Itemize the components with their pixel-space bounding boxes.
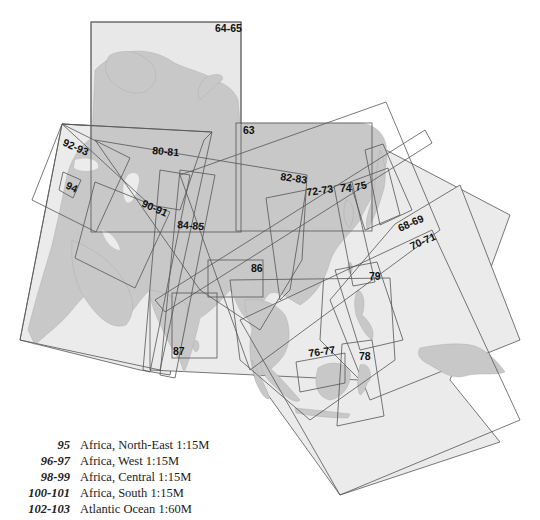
sheet-label-74: 74 — [340, 182, 352, 194]
legend-item: 95 Africa, North-East 1:15M — [8, 438, 209, 454]
legend-title: Africa, West 1:15M — [80, 454, 179, 469]
legend-title: Africa, Central 1:15M — [80, 470, 191, 485]
sheet-label-79: 79 — [369, 270, 381, 282]
legend-pages: 98-99 — [8, 470, 80, 485]
sheet-label-64-65: 64-65 — [215, 22, 242, 34]
sheet-label-80-81: 80-81 — [152, 144, 180, 158]
legend-item: 98-99 Africa, Central 1:15M — [8, 470, 209, 486]
page-legend: 95 Africa, North-East 1:15M 96-97 Africa… — [8, 438, 209, 518]
sheet-label-84-85: 84-85 — [177, 218, 205, 232]
land-sri-lanka — [193, 340, 199, 352]
sheet-label-86: 86 — [251, 262, 263, 274]
legend-pages: 96-97 — [8, 454, 80, 469]
legend-pages: 102-103 — [8, 502, 80, 517]
legend-title: Africa, North-East 1:15M — [80, 438, 209, 453]
sheet-label-87: 87 — [173, 345, 185, 357]
legend-title: Africa, South 1:15M — [80, 486, 184, 501]
legend-pages: 100-101 — [8, 486, 80, 501]
sheet-label-78: 78 — [359, 350, 371, 362]
legend-pages: 95 — [8, 438, 80, 453]
sheet-label-63: 63 — [243, 124, 255, 136]
legend-title: Atlantic Ocean 1:60M — [80, 502, 192, 517]
legend-item: 100-101 Africa, South 1:15M — [8, 486, 209, 502]
legend-item: 96-97 Africa, West 1:15M — [8, 454, 209, 470]
legend-item: 102-103 Atlantic Ocean 1:60M — [8, 502, 209, 518]
